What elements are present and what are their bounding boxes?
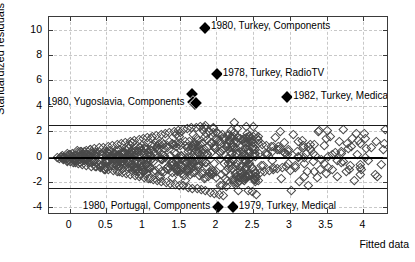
x-gridline — [106, 17, 107, 213]
x-tick-label: 2.5 — [245, 218, 260, 230]
y-tick-mark — [383, 80, 387, 81]
scatter-point — [380, 125, 387, 134]
outlier-marker-a2 — [211, 69, 222, 80]
x-tick-mark — [216, 209, 217, 213]
x-tick-mark — [180, 209, 181, 213]
x-gridline — [363, 17, 364, 213]
x-tick-mark — [253, 17, 254, 21]
outlier-marker-a6 — [227, 201, 238, 212]
outlier-marker-a3 — [282, 92, 293, 103]
y-tick-mark — [49, 106, 53, 107]
x-axis-title: Fitted data — [359, 238, 409, 250]
x-tick-mark — [290, 17, 291, 21]
y-tick-mark — [383, 30, 387, 31]
x-tick-mark — [180, 17, 181, 21]
x-tick-label: 1 — [139, 218, 145, 230]
residual-scatter-figure: Standardized residuals Fitted data 00.51… — [0, 0, 415, 262]
y-tick-mark — [383, 55, 387, 56]
zero-line — [49, 157, 387, 159]
y-tick-label: 2 — [18, 124, 42, 136]
y-tick-label: 8 — [18, 48, 42, 60]
x-gridline — [290, 17, 291, 213]
x-tick-label: 3.5 — [318, 218, 333, 230]
annotation-label-a3: 1982, Turkey, Medical — [292, 90, 387, 101]
y-tick-mark — [49, 207, 53, 208]
x-tick-mark — [327, 17, 328, 21]
x-tick-mark — [106, 209, 107, 213]
y-tick-mark — [383, 131, 387, 132]
y-tick-label: 6 — [18, 73, 42, 85]
y-tick-mark — [383, 157, 387, 158]
y-tick-mark — [49, 30, 53, 31]
x-tick-mark — [70, 17, 71, 21]
y-tick-mark — [49, 182, 53, 183]
y-tick-mark — [383, 182, 387, 183]
x-tick-mark — [143, 209, 144, 213]
scatter-point — [332, 171, 341, 180]
scatter-point — [219, 191, 228, 200]
x-gridline — [327, 17, 328, 213]
y-tick-label: 0 — [18, 150, 42, 162]
y-tick-label: -4 — [18, 200, 42, 212]
y-tick-mark — [49, 55, 53, 56]
y-tick-mark — [383, 106, 387, 107]
scatter-point — [286, 185, 295, 194]
y-tick-mark — [49, 80, 53, 81]
plot-area: 1980, Turkey, Components1978, Turkey, Ra… — [49, 17, 387, 213]
annotation-label-a5: 1980, Portugal, Components — [82, 200, 211, 211]
x-tick-mark — [327, 209, 328, 213]
scatter-point — [377, 160, 386, 169]
x-tick-label: 0.5 — [98, 218, 113, 230]
x-tick-label: 1.5 — [171, 218, 186, 230]
x-tick-mark — [143, 17, 144, 21]
y-gridline — [49, 80, 387, 81]
outlier-marker-a1 — [199, 22, 210, 33]
upper-threshold — [49, 125, 387, 126]
x-gridline — [70, 17, 71, 213]
y-tick-mark — [383, 207, 387, 208]
plot-frame: 1980, Turkey, Components1978, Turkey, Ra… — [48, 16, 388, 214]
x-tick-label: 0 — [66, 218, 72, 230]
annotation-label-a1: 1980, Turkey, Components — [210, 20, 331, 31]
annotation-label-a2: 1978, Turkey, RadioTV — [222, 67, 326, 78]
y-tick-label: 10 — [18, 23, 42, 35]
outlier-marker-a5 — [212, 201, 223, 212]
y-axis-title: Standardized residuals — [0, 3, 6, 115]
x-tick-mark — [363, 17, 364, 21]
x-tick-mark — [290, 209, 291, 213]
y-gridline — [49, 55, 387, 56]
x-tick-mark — [216, 17, 217, 21]
y-tick-label: 4 — [18, 99, 42, 111]
annotation-label-a4: 1980, Yugoslavia, Components — [49, 96, 185, 107]
x-tick-mark — [106, 17, 107, 21]
y-tick-mark — [49, 131, 53, 132]
y-tick-mark — [49, 157, 53, 158]
x-tick-label: 3 — [286, 218, 292, 230]
x-gridline — [143, 17, 144, 213]
x-tick-label: 4 — [359, 218, 365, 230]
y-tick-label: -2 — [18, 175, 42, 187]
lower-threshold — [49, 188, 387, 189]
x-tick-label: 2 — [213, 218, 219, 230]
x-tick-mark — [70, 209, 71, 213]
x-tick-mark — [253, 209, 254, 213]
x-tick-mark — [363, 209, 364, 213]
